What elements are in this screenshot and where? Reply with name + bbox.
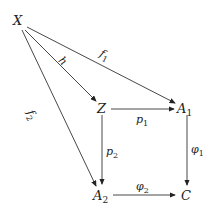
label-p2: p2 [106,145,118,160]
node-X: X [12,13,23,28]
node-Z: Z [96,101,107,116]
label-phi1: φ1 [191,143,204,158]
label-p1: p1 [136,113,148,128]
commutative-diagram: X Z A1 A2 C f1 h f2 p1 p2 φ1 φ2 [0,0,213,212]
label-h: h [56,54,70,68]
arrow-f1 [27,27,175,103]
label-phi2: φ2 [136,180,149,195]
node-A2: A2 [92,188,108,205]
label-f2: f2 [22,107,40,123]
label-f1: f1 [96,46,112,64]
node-A1: A1 [176,101,192,118]
node-C: C [181,188,191,203]
